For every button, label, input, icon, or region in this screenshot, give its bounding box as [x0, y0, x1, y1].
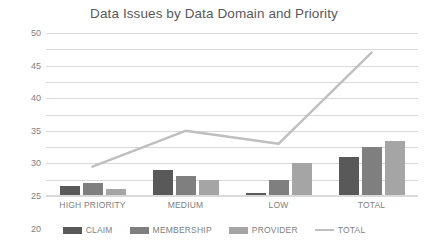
chart-title: Data Issues by Data Domain and Priority — [0, 6, 428, 21]
x-axis-label: LOW — [232, 200, 325, 210]
bar-provider[interactable] — [199, 180, 219, 196]
legend-item-total[interactable]: TOTAL — [315, 225, 366, 235]
y-axis-tick-label: 50 — [31, 28, 41, 38]
bar-group — [232, 33, 325, 196]
bar-membership[interactable] — [176, 176, 196, 196]
legend-swatch-icon — [63, 227, 82, 234]
bar-provider[interactable] — [292, 163, 312, 196]
plot-area: 05101520253035404550 — [46, 33, 418, 196]
y-axis-tick-label: 40 — [31, 93, 41, 103]
legend-swatch-icon — [315, 229, 334, 231]
chart-container: Data Issues by Data Domain and Priority … — [0, 0, 428, 250]
bar-membership[interactable] — [269, 180, 289, 196]
bar-group — [325, 33, 418, 196]
bar-claim[interactable] — [153, 170, 173, 196]
legend-swatch-icon — [229, 227, 248, 234]
y-axis-tick-label: 45 — [31, 61, 41, 71]
y-axis-tick-label: 30 — [31, 158, 41, 168]
legend-label: TOTAL — [338, 225, 366, 235]
gridline: 0 — [46, 196, 418, 197]
bar-groups — [46, 33, 418, 196]
legend-item-provider[interactable]: PROVIDER — [229, 225, 298, 235]
y-axis-tick-label: 35 — [31, 126, 41, 136]
x-axis-line — [46, 195, 418, 196]
legend-item-claim[interactable]: CLAIM — [63, 225, 113, 235]
legend-label: PROVIDER — [252, 225, 298, 235]
bar-group — [139, 33, 232, 196]
bar-group — [46, 33, 139, 196]
x-axis-label: MEDIUM — [139, 200, 232, 210]
x-axis-label: TOTAL — [325, 200, 418, 210]
chart-legend: CLAIMMEMBERSHIPPROVIDERTOTAL — [0, 225, 428, 235]
legend-item-membership[interactable]: MEMBERSHIP — [130, 225, 212, 235]
x-axis-labels: HIGH PRIORITYMEDIUMLOWTOTAL — [46, 200, 418, 210]
bar-provider[interactable] — [385, 141, 405, 196]
legend-label: MEMBERSHIP — [153, 225, 212, 235]
legend-swatch-icon — [130, 227, 149, 234]
legend-label: CLAIM — [86, 225, 113, 235]
bar-claim[interactable] — [339, 157, 359, 196]
x-axis-label: HIGH PRIORITY — [46, 200, 139, 210]
bar-membership[interactable] — [362, 147, 382, 196]
y-axis-tick-label: 25 — [31, 191, 41, 201]
